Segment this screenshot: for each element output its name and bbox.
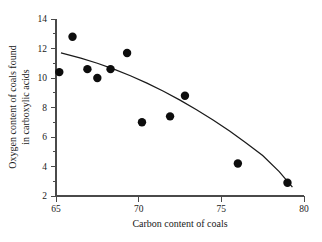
data-point-7 — [166, 112, 174, 120]
x-tick-label-65: 65 — [51, 204, 61, 214]
x-tick-label-70: 70 — [134, 204, 144, 214]
data-point-1 — [68, 33, 76, 41]
data-point-3 — [93, 74, 101, 82]
y-tick-label-6: 6 — [42, 132, 47, 142]
y-tick-label-8: 8 — [42, 103, 47, 113]
x-tick-label-75: 75 — [217, 204, 227, 214]
data-point-0 — [55, 68, 63, 76]
y-tick-label-10: 10 — [38, 73, 48, 83]
data-point-4 — [106, 65, 114, 73]
x-axis-title: Carbon content of coals — [132, 218, 227, 229]
chart-canvas: 2468101214 65707580 Carbon content of co… — [0, 0, 322, 242]
data-point-8 — [181, 92, 189, 100]
y-tick-label-4: 4 — [42, 162, 47, 172]
data-point-9 — [234, 159, 242, 167]
data-point-5 — [123, 49, 131, 57]
y-axis-title-line-2: in carboxylic acids — [20, 69, 31, 145]
y-tick-label-12: 12 — [38, 44, 48, 54]
x-tick-label-80: 80 — [299, 204, 309, 214]
plot-background — [0, 0, 322, 242]
y-tick-label-14: 14 — [38, 14, 48, 24]
y-axis-title-line-1: Oxygen content of coals found — [7, 45, 18, 168]
x-axis-title-text: Carbon content of coals — [132, 218, 227, 229]
data-point-2 — [83, 65, 91, 73]
y-tick-label-2: 2 — [42, 191, 47, 201]
data-point-6 — [138, 118, 146, 126]
data-point-10 — [283, 179, 291, 187]
scatter-plot-figure: 2468101214 65707580 Carbon content of co… — [0, 0, 322, 242]
